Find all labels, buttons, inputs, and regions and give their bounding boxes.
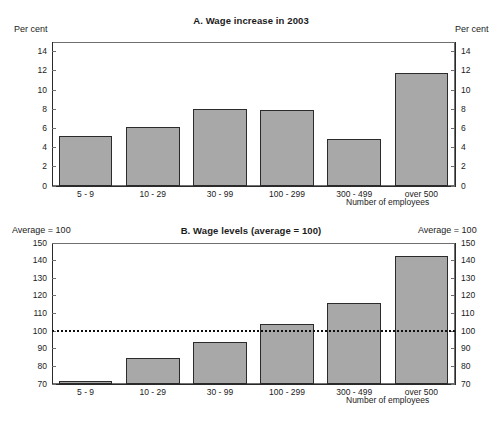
tick-mark — [52, 90, 56, 91]
ytick-label-left: 10 — [16, 86, 47, 95]
tick-mark — [451, 295, 455, 296]
tick-mark — [451, 186, 455, 187]
tick-mark — [451, 348, 455, 349]
ytick-label-left: 140 — [16, 256, 47, 265]
ytick-label-right: 120 — [461, 291, 475, 300]
category-label: 30 - 99 — [186, 189, 253, 199]
panel-b-bottom-axis — [52, 384, 456, 385]
category-label: 100 - 299 — [254, 387, 321, 397]
panel-b-left-axis — [52, 243, 53, 385]
panel-b-right-axis — [455, 243, 456, 385]
tick-mark — [52, 366, 56, 367]
tick-mark — [451, 366, 455, 367]
tick-mark — [52, 278, 56, 279]
tick-mark — [52, 128, 56, 129]
tick-mark — [451, 313, 455, 314]
panel-b-ylabel-right: Average = 100 — [418, 225, 477, 235]
ytick-label-right: 8 — [461, 105, 466, 114]
tick-mark — [52, 186, 56, 187]
tick-mark — [451, 278, 455, 279]
panel-b-xaxis-title: Number of employees — [346, 395, 429, 405]
tick-mark — [52, 384, 56, 385]
tick-mark — [451, 243, 455, 244]
ytick-label-left: 120 — [16, 291, 47, 300]
panel-b-ylabel-left: Average = 100 — [12, 225, 71, 235]
tick-mark — [52, 70, 56, 71]
tick-mark — [451, 109, 455, 110]
chart-panel-b: B. Wage levels (average = 100) Average =… — [0, 214, 502, 428]
ytick-label-right: 2 — [461, 162, 466, 171]
category-label: 100 - 299 — [254, 189, 321, 199]
ytick-label-right: 70 — [461, 380, 470, 389]
ytick-label-left: 150 — [16, 239, 47, 248]
bar — [260, 324, 314, 384]
ytick-label-right: 150 — [461, 239, 475, 248]
bar — [327, 139, 381, 186]
panel-a-title: A. Wage increase in 2003 — [0, 15, 502, 26]
bar — [59, 381, 113, 384]
ytick-label-left: 90 — [16, 344, 47, 353]
ytick-label-left: 130 — [16, 274, 47, 283]
tick-mark — [451, 166, 455, 167]
category-label: 10 - 29 — [119, 387, 186, 397]
category-label: 5 - 9 — [52, 189, 119, 199]
ytick-label-left: 14 — [16, 47, 47, 56]
panel-a-right-axis — [455, 42, 456, 187]
tick-mark — [52, 260, 56, 261]
ytick-label-right: 90 — [461, 344, 470, 353]
tick-mark — [52, 348, 56, 349]
tick-mark — [451, 90, 455, 91]
bar — [260, 110, 314, 186]
tick-mark — [52, 166, 56, 167]
bar — [59, 136, 113, 186]
tick-mark — [451, 147, 455, 148]
ytick-label-left: 70 — [16, 380, 47, 389]
ytick-label-left: 110 — [16, 309, 47, 318]
ytick-label-left: 12 — [16, 66, 47, 75]
ytick-label-right: 100 — [461, 327, 475, 336]
ytick-label-left: 8 — [16, 105, 47, 114]
panel-a-xaxis-title: Number of employees — [346, 197, 429, 207]
ytick-label-right: 110 — [461, 309, 475, 318]
category-label: 30 - 99 — [186, 387, 253, 397]
ytick-label-left: 100 — [16, 327, 47, 336]
tick-mark — [451, 128, 455, 129]
ytick-label-left: 4 — [16, 143, 47, 152]
chart-panel-a: A. Wage increase in 2003 Per cent Per ce… — [0, 0, 502, 214]
ytick-label-right: 80 — [461, 362, 470, 371]
ytick-label-right: 6 — [461, 124, 466, 133]
bar — [126, 127, 180, 186]
panel-a-ylabel-left: Per cent — [14, 24, 48, 34]
tick-mark — [52, 147, 56, 148]
ytick-label-left: 6 — [16, 124, 47, 133]
category-label: 10 - 29 — [119, 189, 186, 199]
ytick-label-left: 0 — [16, 182, 47, 191]
tick-mark — [52, 51, 56, 52]
ytick-label-right: 130 — [461, 274, 475, 283]
bar — [193, 109, 247, 186]
tick-mark — [52, 313, 56, 314]
ytick-label-right: 4 — [461, 143, 466, 152]
bar — [193, 342, 247, 384]
tick-mark — [451, 51, 455, 52]
ytick-label-right: 12 — [461, 66, 470, 75]
ytick-label-left: 2 — [16, 162, 47, 171]
ytick-label-right: 10 — [461, 86, 470, 95]
tick-mark — [52, 109, 56, 110]
ytick-label-right: 0 — [461, 182, 466, 191]
tick-mark — [451, 260, 455, 261]
bar — [327, 303, 381, 384]
bar — [126, 358, 180, 384]
tick-mark — [52, 243, 56, 244]
ytick-label-left: 80 — [16, 362, 47, 371]
panel-b-average-reference-line — [52, 330, 455, 332]
category-label: 5 - 9 — [52, 387, 119, 397]
panel-a-bottom-axis — [52, 186, 456, 187]
tick-mark — [451, 70, 455, 71]
ytick-label-right: 140 — [461, 256, 475, 265]
ytick-label-right: 14 — [461, 47, 470, 56]
tick-mark — [52, 295, 56, 296]
bar — [395, 256, 449, 384]
panel-a-ylabel-right: Per cent — [455, 24, 489, 34]
bar — [395, 73, 449, 186]
